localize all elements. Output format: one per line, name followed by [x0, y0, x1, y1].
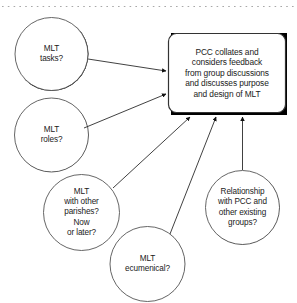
edge-roles-to-pcc	[84, 94, 166, 128]
node-box-pcc-collates[interactable]	[169, 34, 286, 113]
node-circle-mlt-roles[interactable]	[15, 98, 89, 172]
node-shapes	[15, 18, 286, 302]
node-circle-relationship-pcc[interactable]	[206, 171, 280, 245]
node-circle-mlt-ecumenical[interactable]	[110, 227, 185, 302]
diagram-canvas: MLT tasks? MLT roles? MLT with other par…	[0, 0, 297, 303]
edge-parishes-to-pcc	[113, 117, 190, 188]
diagram-vector-layer	[0, 0, 297, 303]
edge-tasks-to-pcc	[88, 59, 166, 71]
node-circle-mlt-other-parishes[interactable]	[44, 175, 120, 251]
node-circle-mlt-tasks[interactable]	[15, 18, 88, 91]
